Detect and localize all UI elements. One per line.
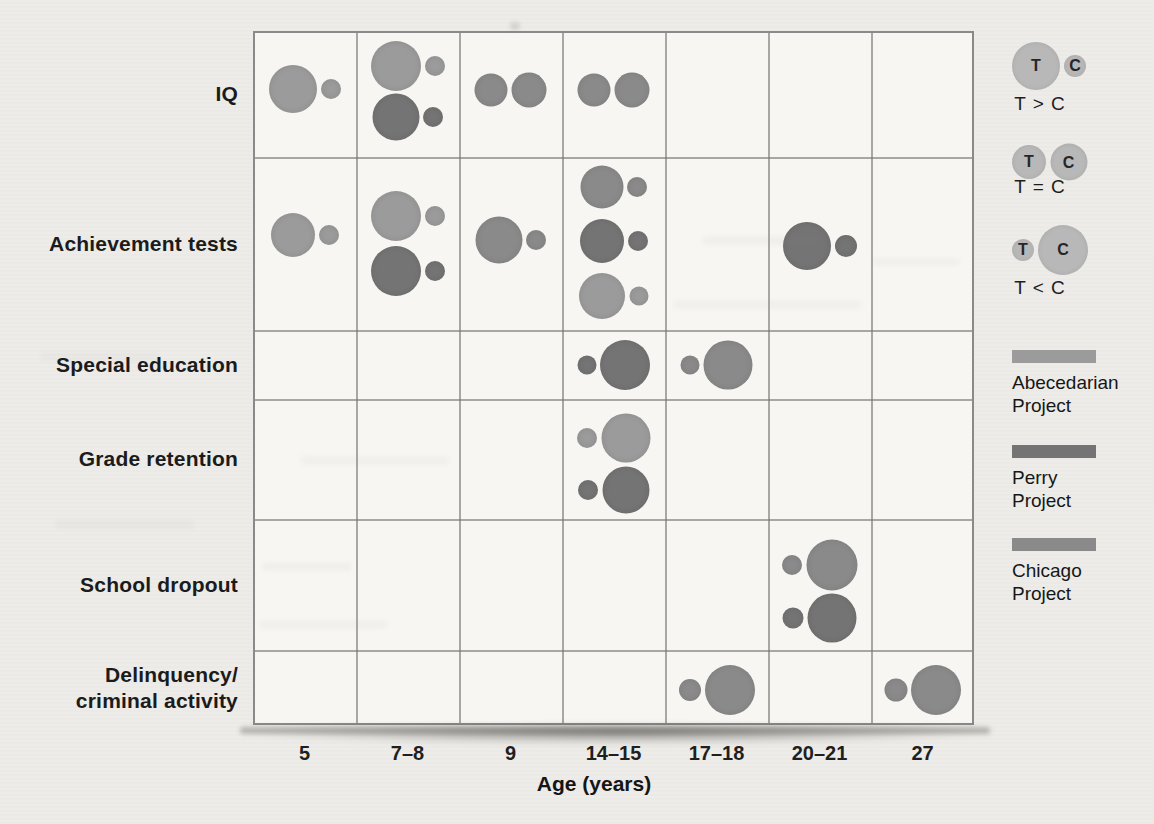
control-bubble <box>806 539 857 590</box>
x-axis-title: Age (years) <box>537 772 651 796</box>
row-label: School dropout <box>0 572 238 598</box>
treatment-bubble <box>577 428 597 448</box>
project-label: ChicagoProject <box>1012 559 1082 605</box>
control-bubble <box>319 225 339 245</box>
grid-line-vertical <box>871 33 873 723</box>
scan-smudge <box>258 620 388 629</box>
row-label: IQ <box>0 81 238 107</box>
scan-shadow <box>240 727 990 734</box>
x-tick-label: 20–21 <box>792 742 848 765</box>
control-bubble <box>425 261 445 281</box>
control-bubble <box>423 107 443 127</box>
treatment-bubble <box>884 678 907 701</box>
x-tick-label: 17–18 <box>689 742 745 765</box>
scan-smudge <box>510 22 520 30</box>
control-bubble <box>601 414 650 463</box>
control-bubble <box>602 467 649 514</box>
treatment-bubble <box>372 94 419 141</box>
grid-line-vertical <box>562 33 564 723</box>
control-bubble <box>425 206 445 226</box>
treatment-bubble <box>578 480 598 500</box>
control-bubble <box>911 665 961 715</box>
control-bubble <box>526 230 546 250</box>
size-legend-label: T = C <box>1014 176 1066 198</box>
project-label: PerryProject <box>1012 466 1071 512</box>
scan-smudge <box>55 520 195 529</box>
legend-treatment-circle: T <box>1012 239 1034 261</box>
scan-smudge <box>262 562 352 571</box>
control-bubble <box>600 340 650 390</box>
control-bubble <box>627 177 647 197</box>
treatment-bubble <box>271 213 315 257</box>
treatment-bubble <box>475 216 522 263</box>
control-bubble <box>835 235 857 257</box>
x-tick-label: 5 <box>299 742 310 765</box>
treatment-bubble <box>783 222 831 270</box>
legend-treatment-circle: T <box>1012 42 1060 90</box>
scan-smudge <box>872 258 960 266</box>
control-bubble <box>629 286 648 305</box>
treatment-bubble <box>783 607 804 628</box>
grid-line-horizontal <box>255 519 972 521</box>
treatment-bubble <box>679 679 701 701</box>
x-tick-label: 9 <box>505 742 516 765</box>
project-swatch <box>1012 445 1096 458</box>
row-label: Grade retention <box>0 446 238 472</box>
control-bubble <box>321 79 341 99</box>
treatment-bubble <box>371 246 421 296</box>
size-legend-label: T < C <box>1014 277 1066 299</box>
control-bubble <box>704 340 753 389</box>
grid-line-vertical <box>459 33 461 723</box>
grid-line-horizontal <box>255 650 972 652</box>
legend-control-circle: C <box>1038 225 1088 275</box>
x-tick-label: 27 <box>911 742 933 765</box>
treatment-bubble <box>580 165 623 208</box>
treatment-bubble <box>269 65 317 113</box>
treatment-bubble <box>577 355 596 374</box>
grid-line-horizontal <box>255 157 972 159</box>
treatment-bubble <box>579 273 625 319</box>
scan-smudge <box>672 300 862 309</box>
project-swatch <box>1012 538 1096 551</box>
legend-control-circle: C <box>1050 144 1087 181</box>
control-bubble <box>628 231 648 251</box>
grid-line-vertical <box>665 33 667 723</box>
control-bubble <box>425 56 445 76</box>
treatment-bubble <box>578 74 611 107</box>
treatment-bubble <box>371 191 421 241</box>
treatment-bubble <box>371 41 421 91</box>
grid-line-horizontal <box>255 399 972 401</box>
control-bubble <box>512 73 547 108</box>
control-bubble <box>808 593 857 642</box>
legend-treatment-circle: T <box>1012 145 1046 179</box>
treatment-bubble <box>580 219 624 263</box>
treatment-bubble <box>681 355 700 374</box>
control-bubble <box>705 665 755 715</box>
size-legend-label: T > C <box>1014 93 1066 115</box>
grid-line-horizontal <box>255 330 972 332</box>
scan-smudge <box>300 456 450 465</box>
scan-smudge <box>40 352 160 361</box>
control-bubble <box>615 73 650 108</box>
row-label: Delinquency/criminal activity <box>0 662 238 714</box>
treatment-bubble <box>782 555 802 575</box>
x-tick-label: 14–15 <box>586 742 642 765</box>
legend-control-circle: C <box>1064 55 1086 77</box>
x-tick-label: 7–8 <box>391 742 424 765</box>
scan-smudge <box>702 236 820 245</box>
project-label: AbecedarianProject <box>1012 371 1119 417</box>
treatment-bubble <box>475 74 508 107</box>
row-label: Achievement tests <box>0 231 238 257</box>
project-swatch <box>1012 350 1096 363</box>
grid-line-vertical <box>768 33 770 723</box>
